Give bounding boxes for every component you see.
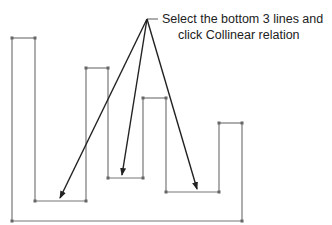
leader-lines — [60, 19, 197, 198]
leader-arrow-1 — [60, 19, 147, 198]
vertex-point[interactable] — [218, 122, 221, 125]
vertex-point[interactable] — [142, 177, 145, 180]
vertex-point[interactable] — [218, 191, 221, 194]
instruction-callout: Select the bottom 3 lines and click Coll… — [162, 11, 323, 43]
vertex-point[interactable] — [142, 97, 145, 100]
vertex-point[interactable] — [165, 191, 168, 194]
callout-line-1: Select the bottom 3 lines and — [162, 11, 323, 27]
callout-line-2: click Collinear relation — [162, 27, 323, 43]
vertex-point[interactable] — [11, 220, 14, 223]
vertex-point[interactable] — [241, 122, 244, 125]
sketch-profile — [12, 38, 242, 221]
vertex-point[interactable] — [165, 97, 168, 100]
vertex-point[interactable] — [34, 200, 37, 203]
vertex-point[interactable] — [107, 67, 110, 70]
vertex-point[interactable] — [107, 177, 110, 180]
vertex-point[interactable] — [11, 37, 14, 40]
sketch-vertices — [11, 37, 244, 223]
vertex-point[interactable] — [241, 220, 244, 223]
vertex-point[interactable] — [85, 67, 88, 70]
vertex-point[interactable] — [34, 37, 37, 40]
leader-arrow-3 — [147, 19, 197, 189]
vertex-point[interactable] — [85, 200, 88, 203]
